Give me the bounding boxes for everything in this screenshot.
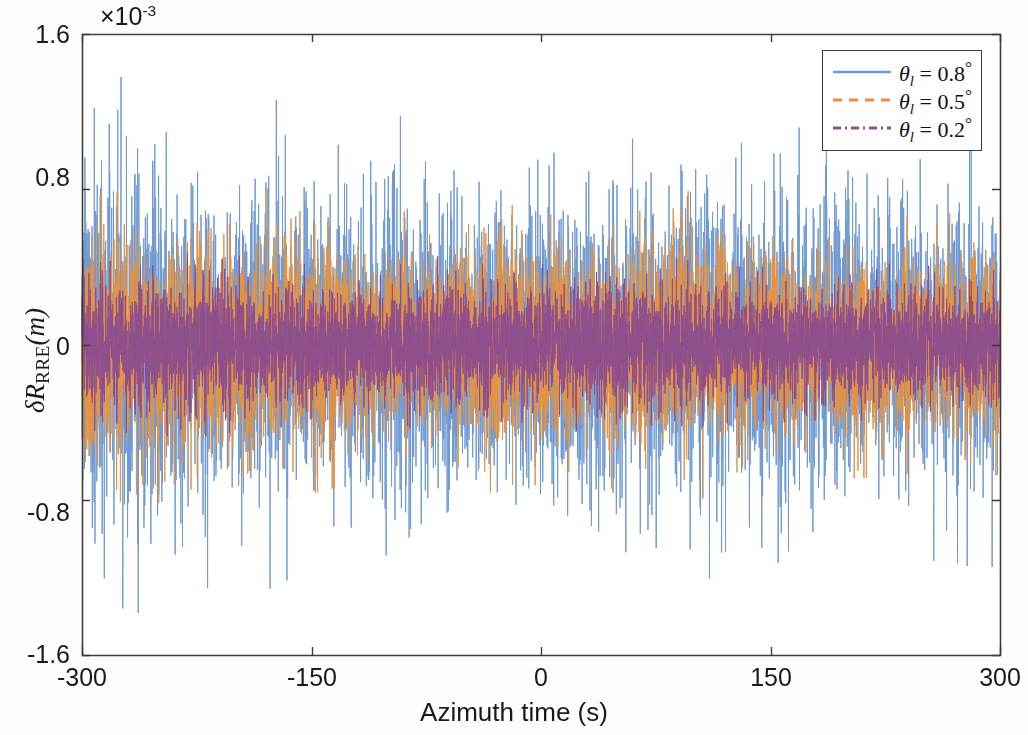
x-tick-label-5: 300: [940, 663, 1028, 692]
y-tick-label-4: -0.8: [0, 498, 70, 527]
y-axis-title-tail: (m): [20, 308, 50, 345]
legend-swatch-dashdot-icon: [831, 120, 893, 136]
y-tick-label-2: 0.8: [0, 163, 70, 192]
figure-container: ×10-3 1.6 0.8 0 -0.8 -1.6 -300 -150 0 15…: [0, 0, 1028, 735]
legend-label-2: θl = 0.5°: [899, 85, 972, 115]
legend-item-3: θl = 0.2°: [831, 114, 973, 142]
legend-swatch-dashed-icon: [831, 92, 893, 108]
legend-swatch-solid-icon: [831, 64, 893, 80]
legend-item-2: θl = 0.5°: [831, 86, 973, 114]
legend-item-1: θl = 0.8°: [831, 58, 973, 86]
y-axis-title-sub: RRE: [31, 346, 52, 384]
y-tick-label-1: 1.6: [0, 20, 70, 49]
x-tick-label-2: -150: [252, 663, 372, 692]
x-tick-label-4: 150: [711, 663, 831, 692]
legend-label-1: θl = 0.8°: [899, 57, 972, 87]
legend-label-3: θl = 0.2°: [899, 113, 972, 143]
x-tick-label-3: 0: [481, 663, 601, 692]
x-tick-label-1: -300: [22, 663, 142, 692]
y-axis-title-main: δR: [20, 384, 50, 413]
chart-legend: θl = 0.8° θl = 0.5° θl = 0.2°: [822, 50, 982, 151]
y-axis-title: δRRRE(m): [20, 231, 51, 491]
x-axis-title: Azimuth time (s): [0, 697, 1028, 728]
y-axis-exponent: ×10-3: [100, 2, 156, 31]
